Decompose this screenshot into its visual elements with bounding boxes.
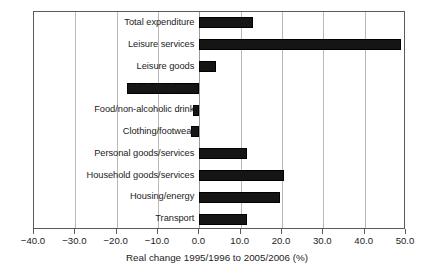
- category-label: Alcohol/tobacco: [0, 82, 194, 92]
- x-tick: [240, 229, 241, 234]
- x-tick: [157, 229, 158, 234]
- bar: [199, 170, 284, 181]
- x-tick-label: 0.0: [175, 235, 221, 246]
- x-tick: [116, 229, 117, 234]
- category-label: Total expenditure: [0, 17, 194, 27]
- category-label: Leisure services: [0, 39, 194, 49]
- category-label: Housing/energy: [0, 191, 194, 201]
- category-label: Food/non-alcoholic drink: [0, 104, 194, 114]
- x-tick: [74, 229, 75, 234]
- x-tick-label: 40.0: [341, 235, 387, 246]
- x-tick-label: −10.0: [134, 235, 180, 246]
- bar: [199, 214, 247, 225]
- category-label: Personal goods/services: [0, 148, 194, 158]
- x-tick: [281, 229, 282, 234]
- bar: [199, 148, 247, 159]
- category-label: Leisure goods: [0, 61, 194, 71]
- bar: [199, 39, 401, 50]
- bar: [199, 17, 253, 28]
- category-label: Household goods/services: [0, 170, 194, 180]
- x-axis-title: Real change 1995/1996 to 2005/2006 (%): [0, 252, 434, 264]
- x-tick-label: −30.0: [51, 235, 97, 246]
- x-tick-label: 20.0: [258, 235, 304, 246]
- x-tick-label: 30.0: [299, 235, 345, 246]
- x-tick-label: 10.0: [217, 235, 263, 246]
- bar: [199, 192, 280, 203]
- x-tick: [364, 229, 365, 234]
- x-tick: [405, 229, 406, 234]
- x-tick-label: −20.0: [93, 235, 139, 246]
- bar: [199, 61, 216, 72]
- category-label: Clothing/footwear: [0, 126, 194, 136]
- x-tick: [33, 229, 34, 234]
- x-tick: [322, 229, 323, 234]
- x-tick-label: 50.0: [382, 235, 428, 246]
- bar-chart: Total expenditureLeisure servicesLeisure…: [0, 0, 434, 278]
- x-tick-label: −40.0: [10, 235, 56, 246]
- category-label: Transport: [0, 213, 194, 223]
- x-tick: [198, 229, 199, 234]
